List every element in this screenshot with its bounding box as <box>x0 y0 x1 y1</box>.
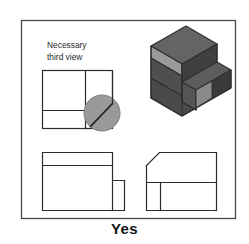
view-bottom-left <box>43 153 125 211</box>
bottom-right-view-outline <box>147 153 217 211</box>
view-bottom-right <box>147 153 217 211</box>
annotation-line-1: Necessary <box>47 40 87 50</box>
figure-root: Necessary third view Yes <box>0 0 249 244</box>
orthographic-views-figure: Necessary third view <box>0 0 249 244</box>
figure-caption: Yes <box>0 220 249 238</box>
highlight-circle <box>84 95 120 131</box>
annotation-line-2: third view <box>47 52 83 62</box>
